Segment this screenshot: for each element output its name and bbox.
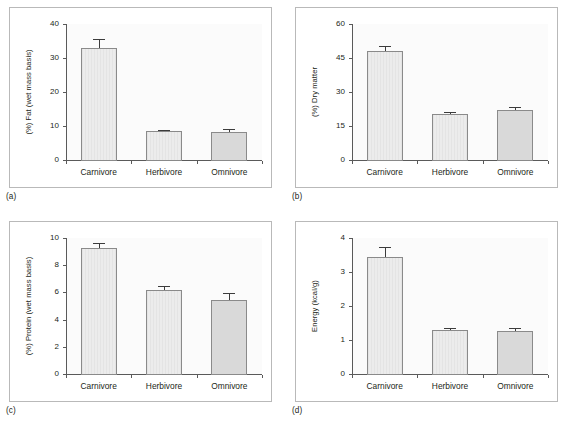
x-tick-mark — [131, 375, 132, 378]
error-bar-stem — [229, 293, 230, 300]
y-axis-line — [66, 238, 67, 375]
y-tick-label: 4 — [320, 233, 345, 242]
error-bar-stem — [99, 39, 100, 48]
y-axis-title: (%) Dry matter — [310, 24, 319, 160]
y-tick-mark — [349, 24, 352, 25]
y-tick-label: 0 — [320, 155, 345, 164]
bar-omnivore — [497, 331, 533, 375]
error-bar-cap — [509, 107, 521, 108]
panel-b: 015304560(%) Dry matterCarnivoreHerbivor… — [286, 0, 572, 214]
y-axis-title: (%) Fat (wet mass basis) — [24, 24, 33, 160]
x-tick-label: Omnivore — [483, 381, 548, 391]
x-tick-label: Carnivore — [352, 381, 417, 391]
x-tick-mark — [352, 161, 353, 164]
y-tick-label: 6 — [34, 287, 59, 296]
y-tick-label: 8 — [34, 260, 59, 269]
panel-label: (c) — [6, 406, 16, 415]
y-tick-label: 2 — [34, 342, 59, 351]
bar-herbivore — [146, 290, 182, 375]
y-axis-line — [352, 24, 353, 161]
bar-carnivore — [81, 48, 117, 161]
bar-carnivore — [81, 248, 117, 375]
y-tick-label: 60 — [320, 19, 345, 28]
panel-label: (b) — [292, 192, 302, 201]
x-tick-mark — [262, 375, 263, 378]
bar-herbivore — [146, 131, 182, 161]
y-tick-label: 3 — [320, 267, 345, 276]
y-tick-mark — [349, 306, 352, 307]
panel-d: 01234Energy (kcal/g)CarnivoreHerbivoreOm… — [286, 214, 572, 428]
x-tick-mark — [197, 161, 198, 164]
y-tick-mark — [63, 265, 66, 266]
x-tick-mark — [131, 161, 132, 164]
y-tick-mark — [63, 126, 66, 127]
x-tick-label: Herbivore — [131, 381, 196, 391]
y-tick-label: 0 — [320, 369, 345, 378]
error-bar-stem — [385, 247, 386, 258]
y-tick-label: 10 — [34, 233, 59, 242]
y-tick-label: 4 — [34, 315, 59, 324]
y-tick-label: 0 — [34, 369, 59, 378]
y-tick-mark — [349, 340, 352, 341]
x-tick-label: Carnivore — [352, 167, 417, 177]
x-tick-label: Carnivore — [66, 381, 131, 391]
x-tick-label: Herbivore — [131, 167, 196, 177]
y-tick-label: 15 — [320, 121, 345, 130]
y-tick-mark — [63, 24, 66, 25]
y-tick-label: 20 — [34, 87, 59, 96]
y-tick-mark — [63, 347, 66, 348]
bar-herbivore — [432, 330, 468, 375]
error-bar-cap — [223, 129, 235, 130]
x-tick-label: Omnivore — [197, 381, 262, 391]
x-tick-mark — [352, 375, 353, 378]
figure-four-panel-bar-charts: 010203040(%) Fat (wet mass basis)Carnivo… — [0, 0, 572, 428]
error-bar-cap — [158, 130, 170, 131]
x-tick-mark — [548, 161, 549, 164]
x-tick-label: Herbivore — [417, 381, 482, 391]
x-tick-mark — [417, 161, 418, 164]
panel-label: (d) — [292, 406, 302, 415]
x-tick-label: Omnivore — [197, 167, 262, 177]
y-tick-label: 40 — [34, 19, 59, 28]
error-bar-cap — [223, 293, 235, 294]
error-bar-cap — [93, 243, 105, 244]
error-bar-cap — [379, 247, 391, 248]
y-tick-label: 0 — [34, 155, 59, 164]
error-bar-cap — [379, 46, 391, 47]
y-tick-mark — [349, 126, 352, 127]
x-tick-mark — [483, 161, 484, 164]
y-tick-label: 30 — [320, 87, 345, 96]
y-axis-line — [66, 24, 67, 161]
bar-carnivore — [367, 257, 403, 375]
x-tick-mark — [262, 161, 263, 164]
x-tick-mark — [66, 375, 67, 378]
y-tick-mark — [63, 292, 66, 293]
error-bar-cap — [158, 286, 170, 287]
y-tick-mark — [63, 92, 66, 93]
bar-herbivore — [432, 114, 468, 161]
panel-label: (a) — [6, 192, 16, 201]
error-bar-cap — [93, 39, 105, 40]
panel-a: 010203040(%) Fat (wet mass basis)Carnivo… — [0, 0, 286, 214]
bar-omnivore — [497, 110, 533, 161]
x-tick-label: Carnivore — [66, 167, 131, 177]
x-tick-mark — [197, 375, 198, 378]
x-tick-label: Herbivore — [417, 167, 482, 177]
bar-carnivore — [367, 51, 403, 161]
bar-omnivore — [211, 132, 247, 161]
x-tick-mark — [548, 375, 549, 378]
bar-omnivore — [211, 300, 247, 375]
x-tick-mark — [417, 375, 418, 378]
y-tick-label: 45 — [320, 53, 345, 62]
y-axis-title: Energy (kcal/g) — [310, 238, 319, 374]
y-axis-line — [352, 238, 353, 375]
error-bar-cap — [509, 328, 521, 329]
y-tick-mark — [349, 58, 352, 59]
x-tick-mark — [66, 161, 67, 164]
y-tick-label: 10 — [34, 121, 59, 130]
y-tick-mark — [63, 58, 66, 59]
error-bar-cap — [444, 112, 456, 113]
panel-c: 0246810(%) Protein (wet mass basis)Carni… — [0, 214, 286, 428]
x-tick-label: Omnivore — [483, 167, 548, 177]
y-tick-mark — [349, 92, 352, 93]
